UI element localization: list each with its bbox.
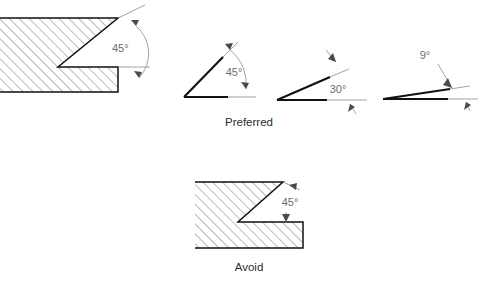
technical-drawing-canvas: 45° 45° 30° (0, 0, 488, 284)
angle-label-45-avoid: 45° (282, 196, 299, 208)
angle-label-9: 9° (420, 49, 431, 61)
caption-avoid: Avoid (235, 261, 264, 273)
angle-label-30: 30° (330, 83, 347, 95)
angle-label-45-top: 45° (112, 42, 129, 54)
angle-label-45-preferred: 45° (226, 66, 243, 78)
caption-preferred: Preferred (225, 116, 273, 128)
